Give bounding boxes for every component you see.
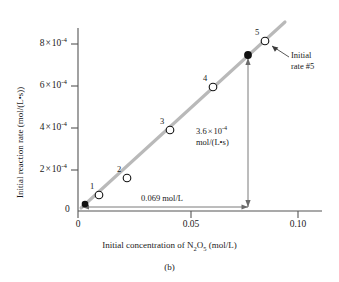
data-point-2 bbox=[123, 174, 131, 182]
y-axis-title: Initial reaction rate (mol/(L•s)) bbox=[15, 87, 25, 198]
callout-annotation: Initial rate #5 bbox=[291, 50, 314, 71]
y-axis-ticks bbox=[71, 44, 78, 170]
y-tick-label-8: 8×10-4 bbox=[18, 38, 67, 49]
figure-caption: (b) bbox=[0, 262, 339, 272]
delta-y-annotation: 3.6×10-4 mol/(L•s) bbox=[196, 126, 229, 147]
x-tick-label-010: 0.10 bbox=[280, 219, 316, 230]
delta-y-arrow bbox=[245, 58, 250, 207]
y-tick-label-2: 2×10-4 bbox=[18, 164, 67, 175]
data-point-3 bbox=[166, 126, 174, 134]
y-tick-label-4: 4×10-4 bbox=[18, 122, 67, 133]
x-axis-ticks bbox=[78, 211, 298, 218]
x-tick-label-005: 0.05 bbox=[173, 219, 209, 230]
filled-data-point-origin bbox=[82, 201, 89, 208]
x-tick-label-0: 0 bbox=[68, 219, 88, 230]
data-point-5 bbox=[261, 37, 269, 45]
data-point-1 bbox=[95, 191, 103, 199]
delta-y-annotation-line2: mol/(L•s) bbox=[196, 137, 229, 148]
y-tick-2-exponent: -4 bbox=[61, 162, 67, 169]
delta-x-annotation: 0.069 mol/L bbox=[141, 194, 183, 204]
data-point-label-5: 5 bbox=[255, 28, 259, 38]
x-axis-title-pre: Initial concentration of N bbox=[102, 240, 193, 250]
callout-line1: Initial bbox=[291, 50, 314, 61]
callout-line2: rate #5 bbox=[291, 61, 314, 72]
callout-leader-line bbox=[272, 46, 289, 57]
data-point-label-4: 4 bbox=[203, 74, 207, 84]
delta-y-exponent: -4 bbox=[222, 125, 227, 131]
data-point-label-3: 3 bbox=[160, 117, 164, 127]
y-tick-label-6: 6×10-4 bbox=[18, 80, 67, 91]
x-axis-title: Initial concentration of N2O5 (mol/L) bbox=[0, 240, 339, 250]
data-point-label-1: 1 bbox=[90, 182, 94, 192]
y-tick-4-exponent: -4 bbox=[61, 120, 67, 127]
y-tick-8-exponent: -4 bbox=[61, 36, 67, 43]
data-point-label-2: 2 bbox=[117, 165, 121, 175]
figure-container: 8×10-4 6×10-4 4×10-4 2×10-4 0 0 0.05 0.1… bbox=[0, 0, 339, 282]
x-axis-title-post: (mol/L) bbox=[206, 240, 236, 250]
data-point-4 bbox=[209, 83, 217, 91]
delta-y-annotation-line1: 3.6×10-4 bbox=[196, 126, 229, 137]
delta-x-arrow bbox=[82, 204, 248, 209]
delta-y-mantissa: 3.6 bbox=[196, 126, 207, 136]
filled-data-point-rate5 bbox=[244, 51, 252, 59]
y-tick-label-0: 0 bbox=[65, 204, 70, 215]
y-tick-6-exponent: -4 bbox=[61, 78, 67, 85]
fit-line bbox=[81, 22, 285, 208]
